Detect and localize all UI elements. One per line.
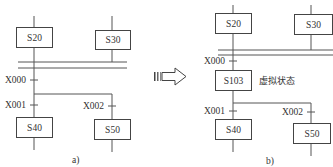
step-s103-b: S103 — [215, 70, 252, 91]
step-s30-a: S30 — [95, 30, 131, 50]
caption-a: a) — [72, 155, 79, 165]
step-s20-a: S20 — [16, 27, 53, 48]
step-s50-b: S50 — [293, 123, 331, 144]
transition-x000-b: X000 — [204, 56, 225, 66]
caption-b: b) — [266, 156, 274, 166]
step-s40-a: S40 — [16, 117, 53, 138]
transition-x002-a: X002 — [83, 101, 104, 111]
transition-x002-b: X002 — [282, 107, 303, 117]
step-s50-a: S50 — [94, 119, 131, 140]
transition-x001-b: X001 — [204, 106, 225, 116]
step-s20-b: S20 — [215, 13, 252, 34]
step-s30-b: S30 — [294, 14, 333, 35]
transition-x001-a: X001 — [5, 100, 26, 110]
virtual-state-label: 虚拟状态 — [259, 76, 295, 86]
transition-x000-a: X000 — [5, 75, 26, 85]
step-s40-b: S40 — [215, 119, 252, 140]
right-arrow-icon — [154, 68, 186, 85]
